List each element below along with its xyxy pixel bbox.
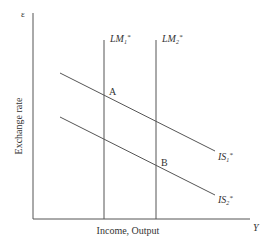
lm2-label: LM2* [161,33,183,45]
is1-label: IS1* [217,151,233,163]
x-axis-symbol: Y [253,222,260,233]
point-b-label: B [161,157,168,168]
is1-curve [60,73,215,151]
x-axis-label: Income, Output [97,225,160,236]
is2-label: IS2* [217,194,233,206]
is2-curve [60,117,215,195]
lm1-label: LM1* [109,33,131,45]
y-axis-symbol: ε [21,9,25,19]
is-lm-diagram: ε Y Exchange rate Income, Output LM1* LM… [0,0,272,251]
point-a-label: A [109,86,117,97]
y-axis-label: Exchange rate [13,97,24,154]
